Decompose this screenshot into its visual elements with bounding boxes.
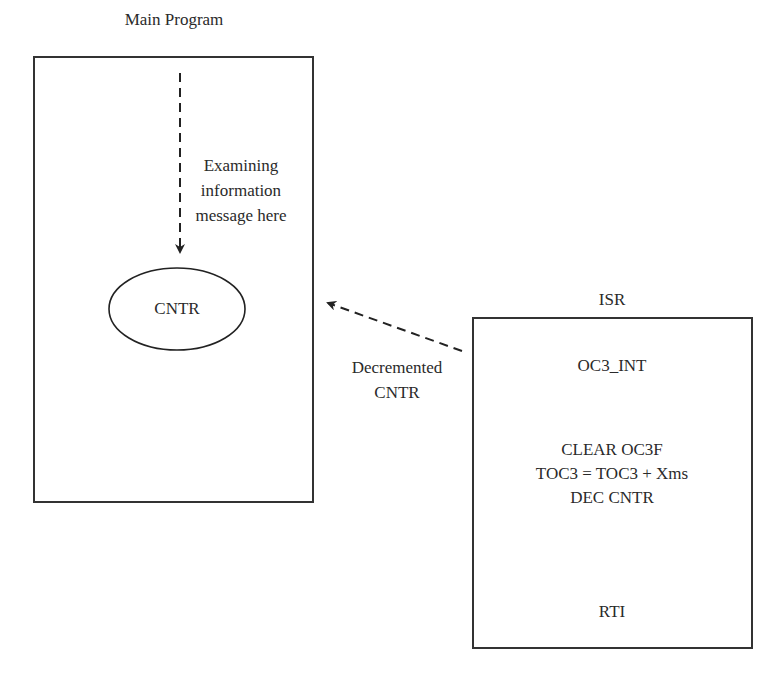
isr-exit-label: RTI (572, 602, 652, 622)
isr-entry-label: OC3_INT (532, 356, 692, 376)
main-program-title: Main Program (104, 10, 244, 30)
isr-body-line-1: CLEAR OC3F (522, 440, 702, 460)
decrement-arrow (328, 303, 462, 351)
examine-annotation-line-3: message here (186, 206, 296, 226)
examine-annotation-line-2: information (186, 181, 296, 201)
examine-annotation-line-1: Examining (186, 156, 296, 176)
isr-title: ISR (572, 290, 652, 310)
connector-label-line-1: Decremented (337, 358, 457, 378)
cntr-node-label: CNTR (127, 299, 227, 319)
isr-body-line-2: TOC3 = TOC3 + Xms (522, 464, 702, 484)
isr-body-line-3: DEC CNTR (522, 488, 702, 508)
connector-label-line-2: CNTR (337, 383, 457, 403)
main-program-box (33, 56, 314, 503)
